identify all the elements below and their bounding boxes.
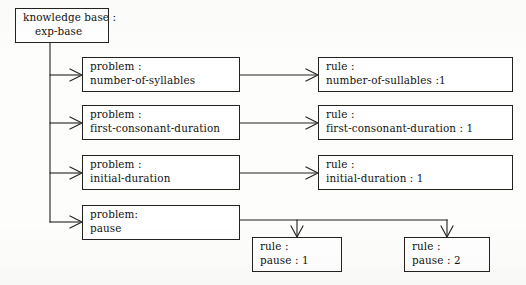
node-line-1: problem : [90,60,239,74]
node-line-1: rule : [326,60,512,74]
node-line-2: first-consonant-duration : 1 [326,122,512,136]
node-line-2: pause : 1 [260,254,341,268]
node-line-1: rule : [326,108,512,122]
node-rule-pause-1[interactable]: rule : pause : 1 [252,237,342,272]
node-rule-first-consonant-duration[interactable]: rule : first-consonant-duration : 1 [318,105,513,140]
node-rule-initial-duration[interactable]: rule : initial-duration : 1 [318,155,513,190]
node-line-2: pause : 2 [412,254,489,268]
node-line-1: problem: [90,208,239,222]
node-problem-pause[interactable]: problem: pause [82,205,240,240]
node-knowledge-base[interactable]: knowledge base : exp-base [15,8,109,43]
node-line-2: initial-duration [90,172,239,186]
node-line-1: problem : [90,158,239,172]
node-rule-pause-2[interactable]: rule : pause : 2 [404,237,490,272]
diagram-canvas: knowledge base : exp-base problem : numb… [0,0,526,285]
node-line-2: number-of-sullables :1 [326,74,512,88]
node-line-1: problem : [90,108,239,122]
node-line-2: initial-duration : 1 [326,172,512,186]
node-line-1: rule : [326,158,512,172]
node-line-2: exp-base [23,25,108,39]
node-problem-first-consonant-duration[interactable]: problem : first-consonant-duration [82,105,240,140]
node-problem-initial-duration[interactable]: problem : initial-duration [82,155,240,190]
node-line-1: rule : [260,240,341,254]
node-problem-number-of-syllables[interactable]: problem : number-of-syllables [82,57,240,92]
node-line-2: number-of-syllables [90,74,239,88]
node-rule-number-of-sullables[interactable]: rule : number-of-sullables :1 [318,57,513,92]
node-line-2: pause [90,222,239,236]
node-line-2: first-consonant-duration [90,122,239,136]
node-line-1: knowledge base : [23,11,108,25]
node-line-1: rule : [412,240,489,254]
